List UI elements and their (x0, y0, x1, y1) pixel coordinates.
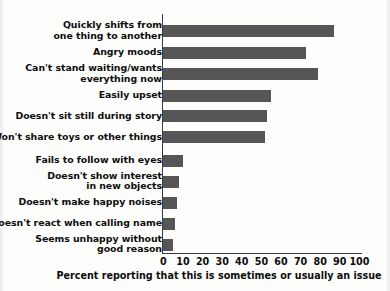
bar-category-label: Quickly shifts from one thing to another (0, 20, 162, 41)
bar-category-label: Angry moods (0, 47, 162, 58)
x-tick-label: 100 (349, 256, 369, 267)
x-tick-label: 90 (333, 256, 346, 267)
x-tick-label: 50 (255, 256, 268, 267)
bar-chart: Quickly shifts from one thing to another… (0, 0, 390, 291)
bar-category-label: Won't share toys or other things (0, 132, 162, 143)
bar (163, 218, 175, 230)
bar-category-label: Doesn't sit still during story (0, 111, 162, 122)
x-tick-label: 20 (196, 256, 209, 267)
bar-category-label: Easily upset (0, 90, 162, 101)
x-axis-ticks: 0102030405060708090100 (0, 256, 390, 268)
bar (163, 68, 318, 80)
bar (163, 197, 177, 209)
x-tick-label: 60 (274, 256, 287, 267)
bar (163, 131, 265, 143)
bar (163, 239, 173, 251)
x-tick-label: 0 (160, 256, 167, 267)
bar (163, 25, 334, 37)
bar (163, 47, 306, 59)
bar-category-label: Fails to follow with eyes (0, 155, 162, 166)
x-axis-title: Percent reporting that this is sometimes… (0, 270, 390, 281)
x-tick-label: 40 (235, 256, 248, 267)
bar (163, 110, 267, 122)
bar-category-label: Doesn't show interest in new objects (0, 171, 162, 192)
bar-category-label: Doesn't react when calling name (0, 218, 162, 229)
x-tick-label: 70 (294, 256, 307, 267)
bar-category-label: Seems unhappy without good reason (0, 234, 162, 255)
bar-category-label: Can't stand waiting/wants everything now (0, 63, 162, 84)
x-tick-label: 80 (314, 256, 327, 267)
bar (163, 90, 271, 102)
x-tick-label: 30 (216, 256, 229, 267)
bar (163, 155, 183, 167)
bar-category-label: Doesn't make happy noises (0, 197, 162, 208)
x-tick-label: 10 (176, 256, 189, 267)
bar (163, 176, 179, 188)
bar-rows: Quickly shifts from one thing to another… (0, 14, 390, 254)
